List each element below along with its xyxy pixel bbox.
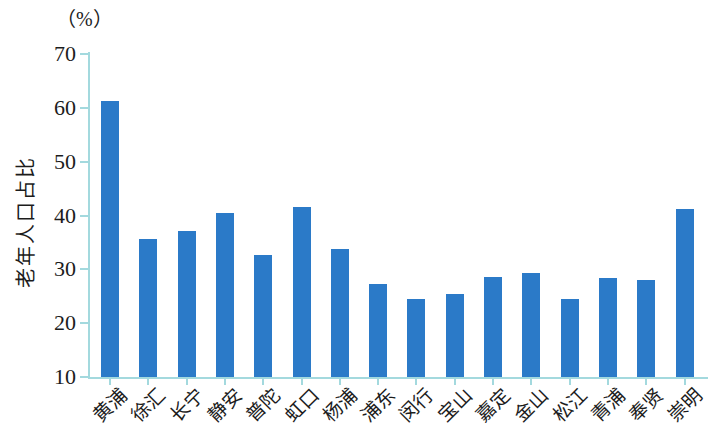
x-tick-label: 崇明	[665, 385, 706, 426]
bar	[522, 273, 540, 377]
y-tick-label: 70	[26, 41, 76, 67]
bar	[254, 255, 272, 377]
y-tick-label: 60	[26, 95, 76, 121]
x-tick-label: 青浦	[588, 385, 629, 426]
x-tick-label: 杨浦	[320, 385, 361, 426]
x-tick	[684, 379, 686, 385]
x-tick	[377, 379, 379, 385]
y-tick	[80, 376, 88, 378]
bar	[293, 207, 311, 377]
y-axis-line	[88, 52, 90, 379]
bar	[139, 239, 157, 377]
x-tick-label: 嘉定	[473, 385, 514, 426]
x-tick	[262, 379, 264, 385]
x-tick	[645, 379, 647, 385]
y-tick-label: 50	[26, 149, 76, 175]
bar	[331, 249, 349, 377]
bar	[369, 284, 387, 377]
bar	[484, 277, 502, 377]
bar	[101, 101, 119, 377]
x-tick	[454, 379, 456, 385]
y-tick	[80, 215, 88, 217]
x-tick	[301, 379, 303, 385]
bar	[599, 278, 617, 377]
x-axis-line	[88, 377, 708, 379]
bar	[637, 280, 655, 377]
y-tick-label: 30	[26, 256, 76, 282]
y-tick-label: 20	[26, 310, 76, 336]
y-tick	[80, 161, 88, 163]
x-tick	[415, 379, 417, 385]
x-tick	[339, 379, 341, 385]
x-tick-label: 虹口	[282, 385, 323, 426]
x-tick-label: 静安	[205, 385, 246, 426]
x-tick	[607, 379, 609, 385]
y-tick	[80, 107, 88, 109]
y-axis-unit-label: （%）	[56, 6, 113, 32]
x-tick-label: 金山	[511, 385, 552, 426]
x-tick	[530, 379, 532, 385]
x-tick	[186, 379, 188, 385]
y-tick	[80, 322, 88, 324]
x-tick-label: 浦东	[358, 385, 399, 426]
bar	[407, 299, 425, 377]
x-tick-label: 松江	[550, 385, 591, 426]
y-tick-label: 10	[26, 364, 76, 390]
bar	[561, 299, 579, 377]
bar	[676, 209, 694, 377]
x-tick-label: 普陀	[243, 385, 284, 426]
x-tick-label: 闵行	[397, 385, 438, 426]
x-tick-label: 宝山	[435, 385, 476, 426]
bar	[446, 294, 464, 377]
x-tick-label: 徐汇	[128, 385, 169, 426]
elderly-population-bar-chart: （%） 老年人口占比 10203040506070黄浦徐汇长宁静安普陀虹口杨浦浦…	[0, 0, 718, 446]
x-tick	[109, 379, 111, 385]
bar	[216, 213, 234, 377]
x-tick-label: 长宁	[167, 385, 208, 426]
x-tick	[569, 379, 571, 385]
bar	[178, 231, 196, 377]
y-tick-label: 40	[26, 203, 76, 229]
x-tick	[224, 379, 226, 385]
x-tick-label: 黄浦	[90, 385, 131, 426]
y-tick	[80, 268, 88, 270]
x-tick-label: 奉贤	[626, 385, 667, 426]
y-tick	[80, 53, 88, 55]
x-tick	[492, 379, 494, 385]
x-tick	[147, 379, 149, 385]
